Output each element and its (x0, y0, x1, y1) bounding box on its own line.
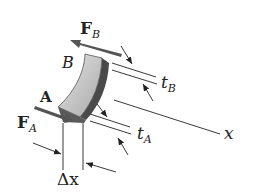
force-b-arrow (70, 40, 122, 57)
delta-x-label: Δx (57, 171, 79, 188)
tube-element-diagram (0, 0, 258, 193)
force-a-label: FA (17, 114, 37, 131)
point-b-label: B (62, 55, 74, 71)
x-axis-line (114, 100, 220, 134)
thickness-a-dimension (90, 104, 131, 155)
point-a-label: A (40, 90, 52, 105)
force-b-label: FB (80, 20, 100, 37)
thickness-a-label: tA (137, 125, 152, 142)
x-axis-label: x (224, 125, 234, 142)
delta-x-dimension (33, 123, 116, 172)
thickness-b-label: tB (161, 74, 176, 91)
